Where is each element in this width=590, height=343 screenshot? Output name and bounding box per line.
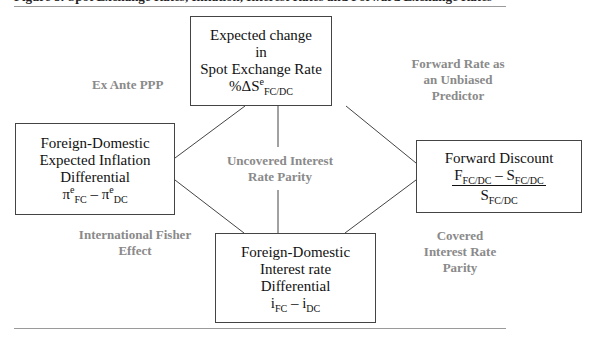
interest-formula: iFC – iDC — [271, 295, 320, 312]
expected-spot-change-box: Expected change in Spot Exchange Rate %Δ… — [190, 16, 332, 106]
box-line: Expected Inflation — [39, 152, 150, 169]
line-left-bottom — [175, 180, 244, 233]
spot-change-formula: %ΔSeFC/DC — [229, 78, 293, 95]
box-line: Expected change — [210, 27, 312, 44]
label-international-fisher-effect: International Fisher Effect — [65, 227, 205, 259]
forward-discount-box: Forward Discount FFC/DC – SFC/DC SFC/DC — [416, 140, 582, 213]
interest-differential-box: Foreign-Domestic Interest rate Different… — [215, 233, 376, 323]
label-ex-ante-ppp: Ex Ante PPP — [92, 77, 164, 93]
label-uncovered-interest-rate-parity: Uncovered Interest Rate Parity — [220, 153, 340, 185]
inflation-formula: πeFC – πeDC — [62, 186, 127, 203]
forward-discount-formula: FFC/DC – SFC/DC SFC/DC — [452, 167, 546, 204]
line-top-left — [175, 106, 245, 158]
line-top-right — [346, 106, 416, 163]
box-line: Differential — [261, 278, 331, 295]
box-line: Forward Discount — [445, 150, 554, 167]
label-forward-unbiased-predictor: Forward Rate as an Unbiased Predictor — [398, 56, 518, 104]
box-line: Interest rate — [260, 261, 331, 278]
label-covered-interest-rate-parity: Covered Interest Rate Parity — [410, 228, 510, 276]
box-line: in — [255, 44, 267, 61]
line-right-bottom — [345, 180, 416, 233]
box-line: Foreign-Domestic — [241, 244, 350, 261]
box-line: Foreign-Domestic — [40, 135, 149, 152]
inflation-differential-box: Foreign-Domestic Expected Inflation Diff… — [15, 123, 175, 215]
